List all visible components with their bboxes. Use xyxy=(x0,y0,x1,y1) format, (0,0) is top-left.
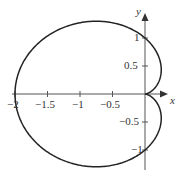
y-axis-label: y xyxy=(136,6,141,17)
y-tick-label: −1 xyxy=(131,144,143,155)
y-tick-label: −0.5 xyxy=(119,116,139,127)
x-axis-arrow-icon xyxy=(160,91,168,98)
x-tick-label: −0.5 xyxy=(100,99,120,110)
x-axis-label: x xyxy=(170,95,175,106)
axes xyxy=(12,13,168,170)
cardioid-plot xyxy=(0,0,177,178)
y-tick-label: 1 xyxy=(134,32,140,43)
y-axis-arrow-icon xyxy=(142,13,149,21)
x-tick-label: −2 xyxy=(7,99,19,110)
y-tick-label: 0.5 xyxy=(124,60,138,71)
x-tick-label: −1 xyxy=(72,99,84,110)
x-tick-label: −1.5 xyxy=(35,99,55,110)
